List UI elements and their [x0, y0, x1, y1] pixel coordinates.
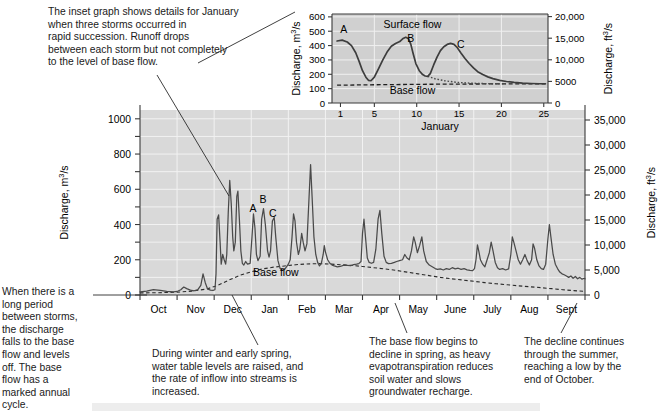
main-y2tick-0: 0 — [594, 290, 600, 301]
inset-storm-label-C: C — [457, 38, 465, 50]
inset-right-ticklabels: 0500010,00015,00020,000 — [555, 11, 584, 108]
main-ytick-4: 800 — [114, 149, 131, 160]
main-month-june: June — [444, 304, 467, 315]
svg-text:Discharge, ft3/s: Discharge, ft3/s — [644, 167, 658, 238]
inset-xtick-2: 10 — [411, 108, 422, 119]
inset-y2tick-0: 0 — [555, 98, 560, 109]
inset-ytick-0: 0 — [320, 98, 325, 109]
main-y2tick-3: 15,000 — [594, 215, 626, 226]
main-ytick-3: 600 — [114, 184, 131, 195]
inset-x-axis-label: January — [421, 120, 459, 132]
inset-xtick-1: 5 — [372, 108, 377, 119]
inset-ytick-6: 600 — [309, 11, 325, 22]
inset-y2-axis-title: Discharge, ft3/s — [601, 23, 615, 94]
inset-xtick-0: 1 — [338, 108, 343, 119]
main-storm-label-B: B — [260, 193, 267, 205]
main-y2tick-5: 25,000 — [594, 165, 626, 176]
main-month-july: July — [483, 304, 502, 315]
inset-storm-label-B: B — [407, 32, 414, 44]
main-y2tick-2: 10,000 — [594, 240, 626, 251]
leader-winter — [232, 295, 258, 345]
main-month-aug: Aug — [520, 304, 539, 315]
inset-left-ticklabels: 0100200300400500600 — [309, 11, 325, 108]
inset-y2tick-4: 20,000 — [555, 11, 584, 22]
inset-xtick-4: 20 — [496, 108, 507, 119]
main-month-may: May — [408, 304, 428, 315]
inset-ytick-1: 100 — [309, 83, 325, 94]
main-ytick-2: 400 — [114, 220, 131, 231]
leader-spring — [395, 303, 407, 333]
figure-canvas: 02004006008001000 05,00010,00015,00020,0… — [0, 0, 670, 413]
main-ytick-1: 200 — [114, 255, 131, 266]
main-right-ticklabels: 05,00010,00015,00020,00025,00030,00035,0… — [594, 115, 626, 301]
main-storm-label-C: C — [269, 207, 277, 219]
main-month-nov: Nov — [186, 304, 205, 315]
inset-y2tick-1: 5000 — [555, 76, 576, 87]
main-storm-label-A: A — [250, 202, 257, 214]
inset-ytick-5: 500 — [309, 26, 325, 37]
main-month-oct: Oct — [151, 304, 167, 315]
main-month-jan: Jan — [261, 304, 278, 315]
inset-surface-flow-label: Surface flow — [384, 18, 442, 30]
svg-text:Discharge, m3/s: Discharge, m3/s — [57, 165, 71, 239]
leader-inset — [198, 12, 295, 63]
main-month-feb: Feb — [298, 304, 316, 315]
inset-y2tick-2: 10,000 — [555, 54, 584, 65]
inset-xtick-3: 15 — [454, 108, 465, 119]
inset-xtick-5: 25 — [538, 108, 549, 119]
inset-ytick-2: 200 — [309, 69, 325, 80]
main-month-labels: OctNovDecJanFebMarAprMayJuneJulyAugSept — [151, 304, 578, 315]
main-y2tick-4: 20,000 — [594, 190, 626, 201]
main-ytick-5: 1000 — [108, 114, 131, 125]
main-y2tick-6: 30,000 — [594, 140, 626, 151]
main-base-flow-label: Base flow — [253, 266, 299, 278]
inset-ytick-3: 300 — [309, 54, 325, 65]
main-y2-axis-title: Discharge, ft3/s — [644, 167, 658, 238]
svg-text:Discharge, m3/s: Discharge, m3/s — [289, 21, 303, 95]
main-ytick-0: 0 — [125, 290, 131, 301]
main-month-apr: Apr — [373, 304, 390, 315]
inset-ytick-4: 400 — [309, 40, 325, 51]
main-y-axis-title: Discharge, m3/s — [57, 165, 71, 239]
main-y2tick-1: 5,000 — [594, 265, 620, 276]
main-left-ticklabels: 02004006008001000 — [108, 114, 131, 301]
main-month-mar: Mar — [335, 304, 353, 315]
main-y2tick-7: 35,000 — [594, 115, 626, 126]
inset-storm-label-A: A — [340, 23, 347, 35]
svg-text:Discharge, ft3/s: Discharge, ft3/s — [601, 23, 615, 94]
inset-base-flow-label: Base flow — [390, 84, 436, 96]
inset-y-axis-title: Discharge, m3/s — [289, 21, 303, 95]
main-hydrograph-plot: 02004006008001000 05,00010,00015,00020,0… — [108, 105, 626, 315]
inset-y2tick-3: 15,000 — [555, 33, 584, 44]
